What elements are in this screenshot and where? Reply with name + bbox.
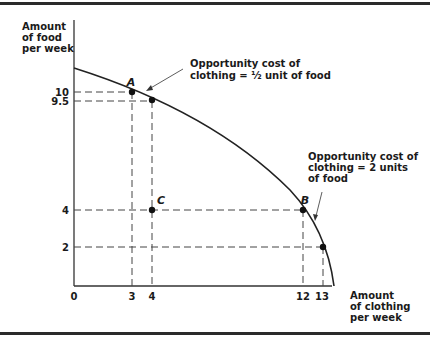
annotation-2-arrow	[313, 192, 322, 221]
x-axis-label-3: per week	[350, 312, 402, 323]
label-b: B	[301, 194, 309, 207]
point-c	[149, 207, 155, 213]
point-2	[320, 244, 326, 250]
x-tick-12: 12	[296, 291, 310, 302]
ppf-chart: A C B 10 9.5 4 2 0 3 4 12 13 Amount of f…	[0, 0, 430, 342]
x-tick-13: 13	[315, 291, 329, 302]
label-a: A	[126, 76, 136, 89]
point-b	[300, 207, 306, 213]
y-axis-label-2: of food	[22, 32, 62, 43]
annotation-1-line-1: Opportunity cost of	[190, 58, 301, 69]
annotation-1-line-2: clothing = ½ unit of food	[190, 70, 331, 81]
point-9-5	[149, 97, 155, 103]
x-tick-0: 0	[71, 291, 78, 302]
x-axis-label-2: of clothing	[350, 301, 411, 312]
label-c: C	[157, 194, 165, 207]
x-tick-4: 4	[149, 291, 156, 302]
point-a	[129, 89, 135, 95]
y-axis-label-1: Amount	[22, 21, 66, 32]
x-tick-3: 3	[129, 291, 136, 302]
annotation-1-arrow	[146, 69, 183, 91]
y-tick-4: 4	[62, 205, 69, 216]
y-tick-9-5: 9.5	[51, 96, 69, 107]
annotation-2-line-2: clothing = 2 units	[308, 162, 408, 173]
annotation-2-line-1: Opportunity cost of	[308, 151, 419, 162]
y-tick-2: 2	[62, 242, 69, 253]
y-axis-label-3: per week	[22, 43, 74, 54]
x-axis-label-1: Amount	[350, 290, 394, 301]
annotation-2-line-3: of food	[308, 173, 348, 184]
